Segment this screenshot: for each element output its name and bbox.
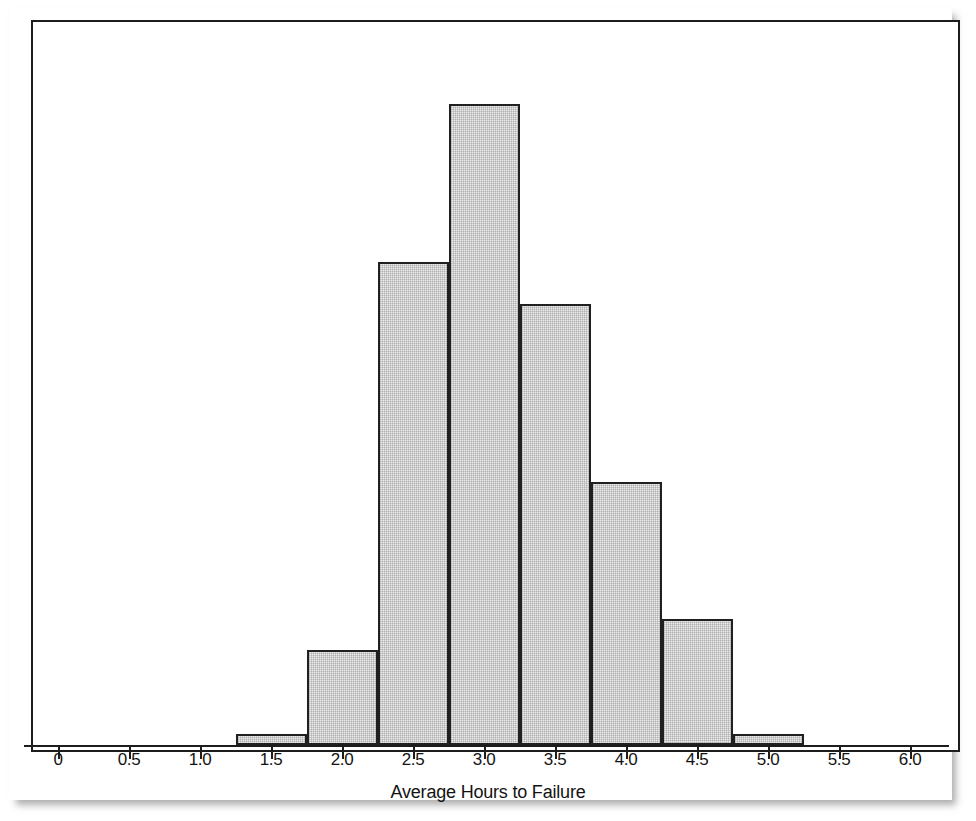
figure-card — [8, 6, 952, 800]
plot-frame — [31, 20, 960, 752]
figure-page: 00.51.01.52.02.53.03.54.04.55.05.56.0 Av… — [0, 0, 976, 821]
